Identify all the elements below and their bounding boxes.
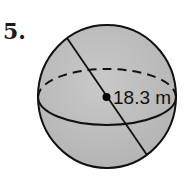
radius-label: 18.3 m xyxy=(113,87,171,108)
center-point xyxy=(103,93,111,101)
sphere-figure: 18.3 m xyxy=(0,0,191,181)
